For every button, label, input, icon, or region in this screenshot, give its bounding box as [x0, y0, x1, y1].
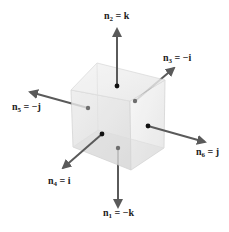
- dot-n6: [146, 124, 151, 129]
- cube-normals-diagram: [0, 0, 229, 232]
- label-n6: n6 = j: [196, 147, 219, 159]
- label-n3: n3 = −i: [163, 53, 191, 65]
- dot-n4: [100, 132, 105, 137]
- label-n5: n5 = −j: [12, 102, 41, 114]
- dot-n5: [86, 106, 90, 110]
- dot-n2: [115, 84, 120, 89]
- label-n2: n2 = k: [104, 11, 129, 23]
- dot-n3: [133, 99, 137, 103]
- label-n4: n4 = i: [48, 176, 71, 188]
- label-n1: n1 = −k: [103, 208, 134, 220]
- dot-n1: [116, 146, 120, 150]
